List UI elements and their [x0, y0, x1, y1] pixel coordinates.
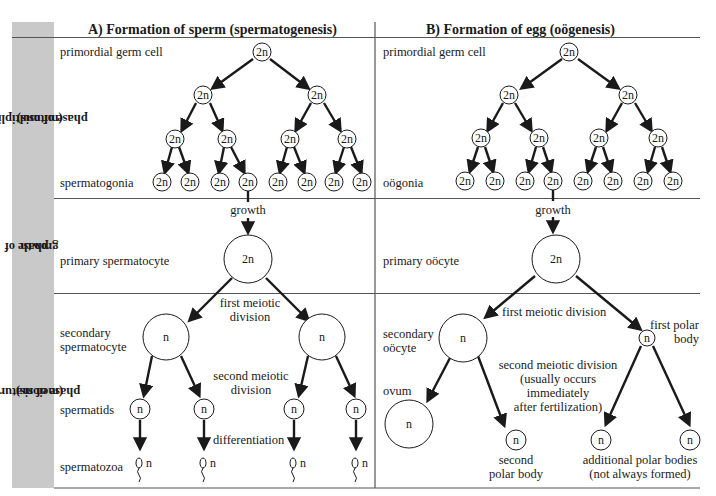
label-line: polar body — [486, 467, 546, 481]
ploidy-label: n — [201, 402, 207, 416]
ploidy-label: 2n — [156, 175, 168, 189]
second-polar-body-label: second polar body — [486, 453, 546, 481]
first-polar-body-label: first polar body — [649, 318, 699, 346]
label-line: second — [486, 453, 546, 467]
label-line: second meiotic — [205, 369, 297, 383]
egg-growth-label: growth — [531, 203, 575, 217]
spermatozoa-icons — [136, 458, 358, 482]
primary-oocyte-label: primary oöcyte — [383, 254, 459, 268]
secondary-spermatocyte-label: secondary spermatocyte — [60, 326, 127, 354]
ploidy-label: 2n — [475, 131, 487, 145]
ovum-label: ovum — [383, 384, 411, 398]
spermatogonia-label: spermatogonia — [60, 176, 134, 190]
ploidy-label: 2n — [169, 132, 181, 146]
sperm-growth-label: growth — [226, 203, 270, 217]
ploidy-label: 2n — [550, 252, 562, 266]
ploidy-label: n — [291, 402, 297, 416]
ploidy-label: 2n — [214, 175, 226, 189]
ploidy-label: 2n — [341, 132, 353, 146]
primary-spermatocyte-label: primary spermatocyte — [60, 254, 169, 268]
ploidy-label: n — [146, 456, 152, 470]
diagram-graphics: 2n 2n2n 2n2n2n2n 2n2n2n2n 2n2n2n2n 2n nn… — [0, 0, 716, 496]
ploidy-label: 2n — [547, 174, 559, 188]
label-line: division — [210, 310, 290, 324]
ploidy-label: 2n — [328, 175, 340, 189]
ploidy-label: n — [406, 417, 412, 431]
label-line: secondary — [60, 326, 127, 340]
label-line: second meiotic division — [488, 358, 628, 372]
label-line: (usually occurs — [488, 372, 628, 386]
ploidy-label: 2n — [301, 175, 313, 189]
ploidy-label: 2n — [503, 88, 515, 102]
ploidy-label: n — [598, 433, 604, 447]
sperm-primordial-label: primordial germ cell — [60, 45, 163, 59]
label-line: body — [649, 332, 699, 346]
label-line: additional polar bodies — [570, 453, 710, 467]
spermatozoa-label: spermatozoa — [60, 460, 123, 474]
gametogenesis-diagram: phase of multiplication(mitosis) phase o… — [0, 0, 716, 496]
differentiation-label: differentiation — [213, 433, 284, 447]
additional-polar-bodies-label: additional polar bodies (not always form… — [570, 453, 710, 481]
second-meiotic-division-label: second meiotic division — [205, 369, 297, 397]
ploidy-label: n — [353, 402, 359, 416]
ploidy-label: 2n — [652, 131, 664, 145]
ploidy-label: 2n — [184, 175, 196, 189]
secondary-oocyte-label: secondary oöcyte — [383, 327, 434, 355]
ploidy-label: 2n — [221, 132, 233, 146]
ploidy-label: 2n — [622, 88, 634, 102]
label-line: first polar — [649, 318, 699, 332]
egg-first-meiotic-division-label: first meiotic division — [502, 305, 606, 319]
ploidy-label: n — [210, 456, 216, 470]
ploidy-label: 2n — [272, 175, 284, 189]
ploidy-label: 2n — [356, 175, 368, 189]
ploidy-label: 2n — [519, 174, 531, 188]
ploidy-label: 2n — [284, 132, 296, 146]
ploidy-label: 2n — [607, 174, 619, 188]
ploidy-label: 2n — [311, 88, 323, 102]
label-line: after fertilization) — [488, 400, 628, 414]
ploidy-label: 2n — [256, 45, 268, 59]
ploidy-label: 2n — [563, 45, 575, 59]
ploidy-label: n — [163, 330, 169, 344]
ploidy-label: 2n — [533, 131, 545, 145]
label-line: spermatocyte — [60, 340, 127, 354]
egg-second-meiotic-division-label: second meiotic division (usually occurs … — [488, 358, 628, 414]
ploidy-label: n — [319, 330, 325, 344]
label-line: oöcyte — [383, 341, 434, 355]
ploidy-label: n — [460, 331, 466, 345]
ploidy-label: 2n — [637, 174, 649, 188]
ploidy-label: 2n — [459, 174, 471, 188]
ploidy-label: n — [687, 433, 693, 447]
ploidy-label: 2n — [593, 131, 605, 145]
spermatids-label: spermatids — [60, 403, 114, 417]
ploidy-label: 2n — [242, 252, 254, 266]
ploidy-label: n — [137, 402, 143, 416]
label-line: (not always formed) — [570, 467, 710, 481]
ploidy-label: n — [513, 433, 519, 447]
label-line: division — [205, 383, 297, 397]
ploidy-label: 2n — [197, 88, 209, 102]
ploidy-label: 2n — [242, 175, 254, 189]
ploidy-label: 2n — [489, 174, 501, 188]
ploidy-label: n — [300, 456, 306, 470]
label-line: secondary — [383, 327, 434, 341]
ploidy-label: n — [362, 456, 368, 470]
ploidy-label: 2n — [667, 174, 679, 188]
label-line: first meiotic — [210, 296, 290, 310]
egg-primordial-label: primordial germ cell — [383, 45, 486, 59]
oogonia-label: oögonia — [383, 176, 423, 190]
first-meiotic-division-label: first meiotic division — [210, 296, 290, 324]
ploidy-label: 2n — [577, 174, 589, 188]
label-line: immediately — [488, 386, 628, 400]
